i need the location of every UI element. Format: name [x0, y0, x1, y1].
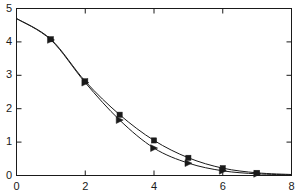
marker-triangle-right — [185, 160, 192, 167]
marker-triangle-right — [151, 145, 158, 152]
x-tick-label: 0 — [10, 181, 24, 192]
axes-frame — [17, 9, 292, 176]
axis-ticks — [17, 9, 292, 176]
data-series — [17, 19, 292, 178]
plot-area — [0, 0, 307, 194]
y-tick-label: 0 — [0, 170, 12, 181]
series-line — [17, 19, 292, 175]
y-tick-label: 4 — [0, 36, 12, 47]
series-line — [17, 19, 292, 175]
x-tick-label: 4 — [147, 181, 161, 192]
marker-square — [151, 138, 156, 143]
y-tick-label: 5 — [0, 3, 12, 14]
y-tick-label: 1 — [0, 136, 12, 147]
chart-figure: 543210 02468 — [0, 0, 307, 194]
marker-square — [117, 112, 122, 117]
data-series-layer — [17, 19, 292, 178]
x-tick-label: 6 — [216, 181, 230, 192]
data-series — [17, 19, 292, 176]
x-tick-label: 2 — [78, 181, 92, 192]
x-tick-label: 8 — [285, 181, 299, 192]
y-tick-label: 3 — [0, 69, 12, 80]
y-tick-label: 2 — [0, 103, 12, 114]
marker-square — [186, 155, 191, 160]
